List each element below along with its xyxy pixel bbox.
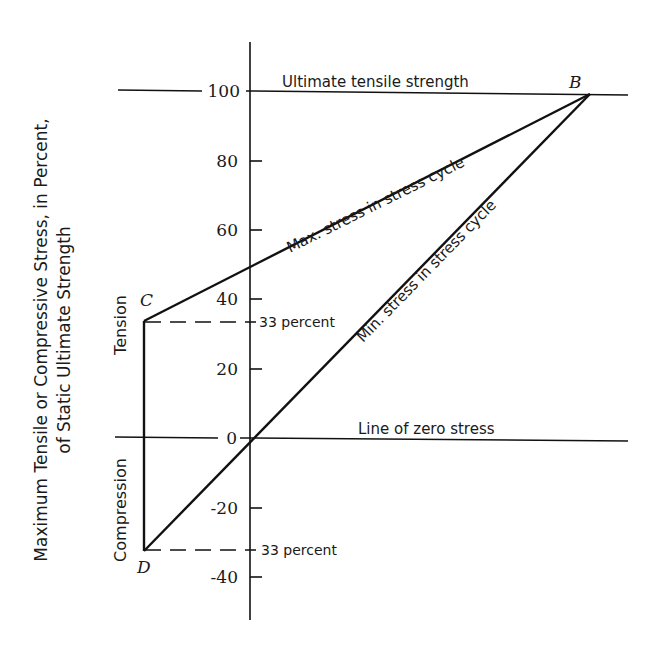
y-tick-40: 40 [216, 289, 238, 309]
stress-cycle-diagram: 100 80 60 40 20 0 -20 -40 Ultimate tensi… [0, 0, 656, 654]
y-axis-ticks [250, 161, 262, 577]
min-stress-label: Min. stress in stress cycle [353, 196, 500, 346]
uts-label: Ultimate tensile strength [282, 73, 469, 91]
zero-line-left [115, 437, 218, 438]
point-c-label: C [140, 290, 153, 310]
y-tick-60: 60 [216, 220, 238, 240]
y-axis-title-line2: of Static Ultimate Strength [54, 226, 74, 453]
point-b-label: B [568, 72, 582, 92]
max-stress-label: Max. stress in stress cycle [284, 153, 468, 257]
y-tick-0: 0 [226, 428, 237, 448]
point-d-label: D [136, 557, 151, 577]
pct-33-bottom-label: 33 percent [261, 542, 337, 558]
tension-label: Tension [111, 295, 130, 356]
compression-label: Compression [111, 458, 130, 562]
zero-line-right [240, 438, 628, 441]
pct-33-top-label: 33 percent [259, 314, 335, 330]
y-tick-100: 100 [208, 81, 240, 101]
y-tick-neg20: -20 [211, 498, 238, 518]
uts-line-left [118, 90, 202, 91]
zero-stress-label: Line of zero stress [358, 420, 495, 438]
y-tick-80: 80 [216, 151, 238, 171]
y-axis-title-line1: Maximum Tensile or Compressive Stress, i… [31, 118, 51, 561]
y-tick-neg40: -40 [211, 567, 238, 587]
y-tick-20: 20 [216, 359, 238, 379]
